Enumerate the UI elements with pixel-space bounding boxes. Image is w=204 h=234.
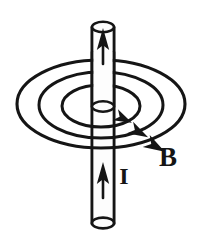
physics-figure-magnetic-field: B I [0,0,204,234]
figure-canvas: B I [0,0,204,234]
wire-mid-cap-icon [92,101,114,111]
current-label-I: I [119,163,128,189]
field-label-B: B [159,142,177,172]
wire-bottom-cap-icon [92,218,114,229]
